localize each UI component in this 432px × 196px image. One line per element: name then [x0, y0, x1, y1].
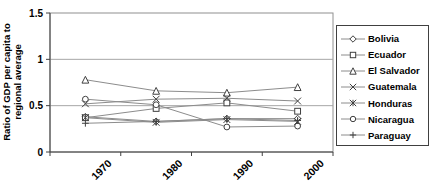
legend-item-ecuador: Ecuador — [341, 47, 426, 62]
circle-marker — [224, 124, 230, 130]
series-line-guatemala — [85, 98, 297, 104]
asterisk-legend-swatch-icon — [341, 98, 365, 108]
legend-label: Paraguay — [368, 130, 411, 141]
triangle-legend-swatch-icon — [341, 66, 365, 76]
square-marker — [350, 52, 355, 57]
legend-label: Nicaragua — [368, 114, 414, 125]
legend-item-el-salvador: El Salvador — [341, 63, 426, 78]
plus-legend-swatch-icon — [341, 130, 365, 140]
legend-item-nicaragua: Nicaragua — [341, 112, 426, 127]
gdp-ratio-line-chart: 00.511.51970198019902000Ratio of GDP per… — [0, 0, 432, 196]
y-tick-label: 1.5 — [29, 8, 43, 19]
plus-marker — [223, 115, 230, 122]
plus-marker — [350, 132, 356, 138]
legend-item-paraguay: Paraguay — [341, 128, 426, 143]
legend-label: Guatemala — [368, 81, 417, 92]
legend-label: Bolivia — [368, 33, 399, 44]
plot-border — [50, 13, 333, 152]
legend-label: El Salvador — [368, 65, 420, 76]
square-marker — [295, 108, 301, 114]
legend-item-honduras: Honduras — [341, 96, 426, 111]
diamond-marker — [350, 35, 356, 41]
circle-marker — [153, 102, 159, 108]
y-axis-title-line2: regional average — [12, 44, 23, 120]
x-tick-label: 1980 — [160, 157, 185, 182]
y-tick-label: 1 — [37, 54, 43, 65]
circle-marker — [350, 117, 355, 122]
x-tick-label: 2000 — [301, 157, 326, 182]
legend-item-bolivia: Bolivia — [341, 31, 426, 46]
legend-label: Ecuador — [368, 49, 406, 60]
legend-label: Honduras — [368, 98, 412, 109]
x-tick-label: 1970 — [89, 157, 114, 182]
y-tick-label: 0 — [37, 147, 43, 158]
x-tick-label: 1990 — [230, 157, 255, 182]
x-legend-swatch-icon — [341, 82, 365, 92]
circle-legend-swatch-icon — [341, 114, 365, 124]
series-line-el-salvador — [85, 80, 297, 93]
circle-marker — [82, 96, 88, 102]
square-legend-swatch-icon — [341, 50, 365, 60]
legend-item-guatemala: Guatemala — [341, 79, 426, 94]
diamond-legend-swatch-icon — [341, 34, 365, 44]
circle-marker — [295, 123, 301, 129]
plus-marker — [153, 118, 160, 125]
y-tick-label: 0.5 — [29, 100, 43, 111]
chart-legend: BoliviaEcuadorEl SalvadorGuatemalaHondur… — [336, 25, 429, 146]
y-axis-title-line1: Ratio of GDP per capita to — [1, 23, 12, 141]
